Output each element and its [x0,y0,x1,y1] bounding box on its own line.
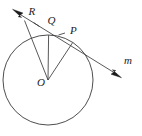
tick-mark-o-p [59,33,66,35]
secant-line-m [17,12,118,74]
label-point-q: Q [48,14,56,26]
arrowhead-lower-right-icon [111,70,122,78]
geometry-diagram: R Q P O m [0,0,142,136]
segment-o-p [48,43,73,80]
segment-o-q [48,35,49,80]
geometry-canvas: R Q P O m [0,0,142,136]
label-point-p: P [69,24,77,36]
label-point-o: O [37,76,45,88]
arrowhead-upper-left-icon [13,9,24,17]
tick-mark-o-r [34,23,40,27]
label-point-r: R [28,5,36,17]
label-line-m: m [124,54,132,66]
